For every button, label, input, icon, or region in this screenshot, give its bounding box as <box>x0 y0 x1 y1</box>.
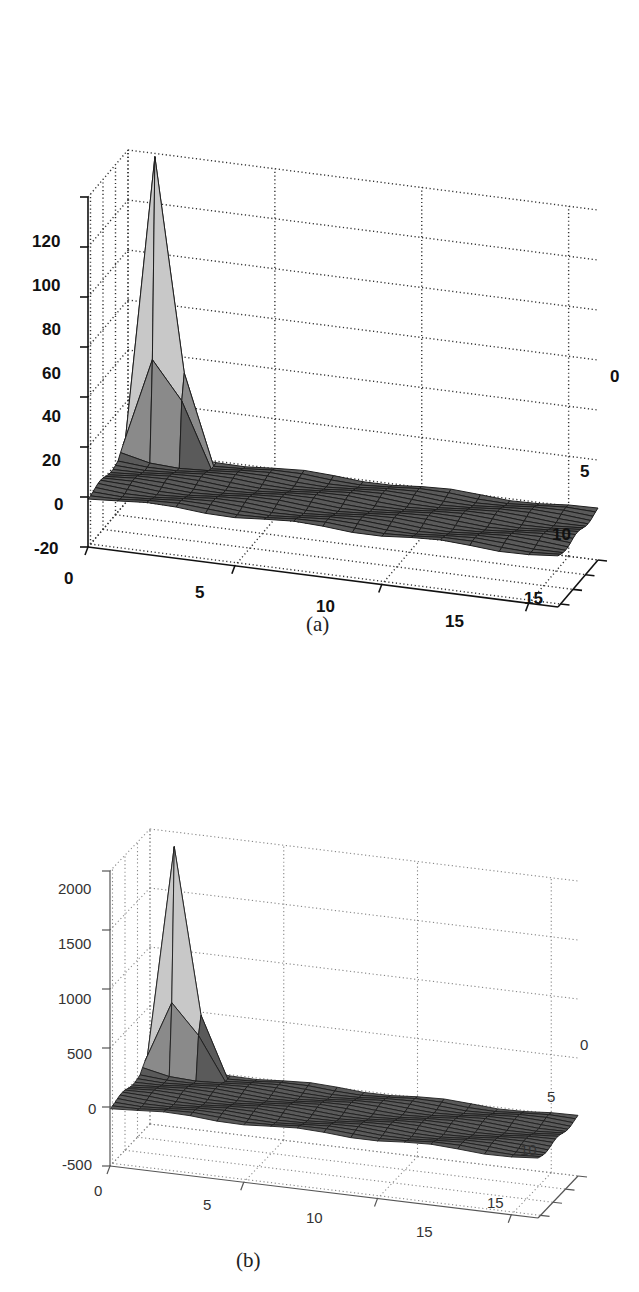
y-tick-label: 5 <box>547 1089 555 1104</box>
z-tick-label: 80 <box>42 321 61 338</box>
figure-b: 2000 1500 1000 500 0 -500 0 5 10 15 0 5 … <box>0 646 639 1292</box>
z-tick-label: 0 <box>88 1101 96 1116</box>
surface-mesh <box>110 847 578 1158</box>
figure-a: 120 100 80 60 40 20 0 -20 0 5 10 15 0 5 … <box>0 0 639 646</box>
y-tick-label: 0 <box>610 368 619 385</box>
z-tick-label: -20 <box>34 540 59 557</box>
z-tick-label: 20 <box>42 452 61 469</box>
z-tick-label: 60 <box>42 365 61 382</box>
x-tick-label: 5 <box>195 584 204 601</box>
y-tick-label: 15 <box>524 590 543 607</box>
z-tick-label: 0 <box>54 496 63 513</box>
z-tick-label: -500 <box>62 1157 92 1172</box>
x-tick-label: 5 <box>203 1197 211 1212</box>
surface-mesh <box>88 157 598 556</box>
z-tick-label: 1000 <box>58 991 91 1006</box>
x-tick-label: 0 <box>64 570 73 587</box>
z-tick-label: 500 <box>67 1046 92 1061</box>
y-tick-label: 15 <box>487 1195 504 1210</box>
z-tick-label: 120 <box>32 233 60 250</box>
z-tick-label: 100 <box>32 277 60 294</box>
x-tick-label: 15 <box>445 613 464 630</box>
x-tick-label: 15 <box>416 1224 433 1239</box>
z-tick-label: 40 <box>42 408 61 425</box>
figure-caption: (a) <box>306 612 329 637</box>
x-tick-label: 0 <box>94 1183 102 1198</box>
z-tick-label: 1500 <box>58 936 91 951</box>
y-tick-label: 10 <box>552 526 571 543</box>
y-tick-label: 10 <box>520 1142 537 1157</box>
z-tick-label: 2000 <box>58 881 91 896</box>
y-tick-label: 0 <box>580 1037 588 1052</box>
y-tick-label: 5 <box>580 463 589 480</box>
figure-caption: (b) <box>236 1248 261 1273</box>
surface-plot-a <box>0 0 639 646</box>
x-tick-label: 10 <box>306 1210 323 1225</box>
